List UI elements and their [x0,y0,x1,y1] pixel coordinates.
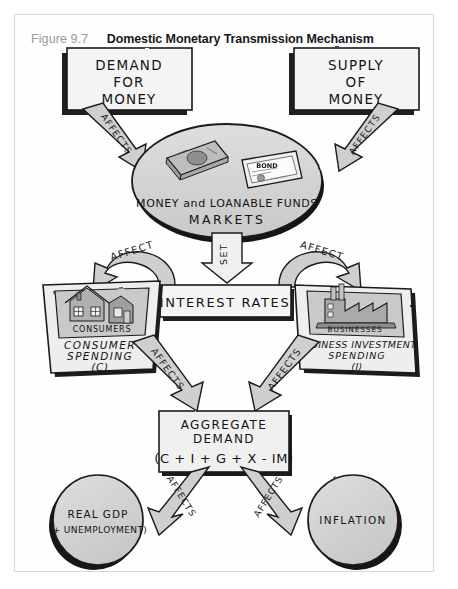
business-line3: (I) [351,361,362,372]
node-aggregate-demand[interactable]: AGGREGATE DEMAND (C + I + G + X - IM) [154,411,294,476]
node-real-gdp[interactable]: REAL GDP (+ UNEMPLOYMENT) [49,475,148,570]
business-line2: SPENDING [328,350,385,361]
supply-line2: OF [346,74,367,90]
demand-line2: FOR [113,74,144,90]
gdp-line1: REAL GDP [68,508,129,520]
arrow-label: AFFECTS [347,112,382,157]
arrow-shape [148,467,209,535]
arrow-ad-to-gdp: AFFECTS [148,467,209,535]
arrow-shape [241,467,302,535]
arrow-label: SET [218,243,229,265]
node-supply-of-money[interactable]: SUPPLY OF MONEY [289,48,419,115]
inflation-label: INFLATION [319,514,387,526]
ad-line2: DEMAND [193,432,255,446]
node-inflation[interactable]: INFLATION [308,475,402,570]
demand-line1: DEMAND [95,57,163,73]
node-interest-rates[interactable]: INTEREST RATES [160,285,294,321]
figure-frame: Figure 9.7 Domestic Monetary Transmissio… [14,14,434,572]
arrow-label: AFFECTS [265,346,303,393]
arrow-rates-to-business: AFFECT [279,239,361,291]
market-line2: MARKETS [189,212,266,227]
arrow-ad-to-inflation: AFFECTS [241,467,302,535]
business-image-label: BUSINESSES [328,325,383,334]
consumer-line3: (C) [91,361,108,373]
ad-line1: AGGREGATE [181,418,268,432]
demand-line3: MONEY [101,91,156,107]
bond-label: BOND [256,162,278,170]
node-money-market[interactable]: BOND MONEY and LOANABLE FUNDS MARKETS [132,124,324,243]
node-business-investment[interactable]: BUSINESSES BUSINESS INVESTMENT SPENDING … [295,284,420,377]
rates-label: INTEREST RATES [160,295,290,310]
supply-line1: SUPPLY [328,57,384,73]
node-consumer-spending[interactable]: CONSUMERS CONSUMER SPENDING (C) [43,281,163,377]
diagram-canvas: DEMAND FOR MONEY SUPPLY OF MONEY AFFECTS [15,15,435,573]
market-line1: MONEY and LOANABLE FUNDS [136,197,318,210]
arrow-label: AFFECTS [99,112,134,157]
node-demand-for-money[interactable]: DEMAND FOR MONEY [62,48,192,115]
ad-line3: (C + I + G + X - IM) [154,451,294,466]
consumer-image-label: CONSUMERS [73,325,132,334]
supply-line3: MONEY [328,91,383,107]
gdp-line2: (+ UNEMPLOYMENT) [49,525,148,535]
gdp-circle [53,475,143,565]
